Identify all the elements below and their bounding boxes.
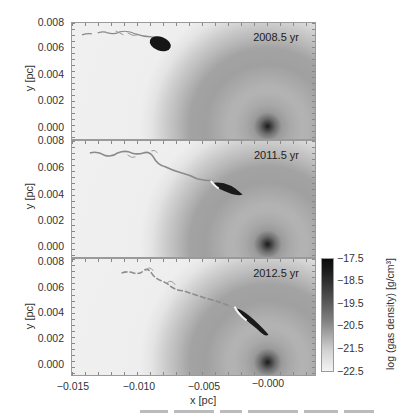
top-axis-ticks [72, 23, 315, 26]
colorbar-tick-label: −21.5 [337, 342, 364, 354]
right-axis-ticks [312, 259, 315, 375]
colorbar [321, 258, 334, 372]
bottom-axis-ticks [72, 372, 315, 375]
plot-panel-2012: 2012.5 yr [71, 258, 316, 376]
plot-panel-2008: 2008.5 yr [71, 22, 316, 140]
y-tick-label: 0.004 [14, 188, 64, 200]
x-axis-label: x [pc] [190, 394, 216, 406]
colorbar-tick-label: −19.5 [337, 297, 364, 309]
y-tick-label: 0.002 [14, 214, 64, 226]
y-tick-label: 0.000 [14, 358, 64, 370]
top-axis-ticks [72, 259, 315, 262]
y-axis-label: y [pc] [23, 171, 35, 221]
caption-fragment [140, 410, 403, 416]
colorbar-tick-label: −18.5 [337, 274, 364, 286]
y-axis-label: y [pc] [23, 291, 35, 341]
colorbar-label: log (gas density) [g/cm³] [384, 254, 396, 374]
x-tick-label: −0.005 [188, 380, 220, 392]
y-tick-label: 0.006 [14, 161, 64, 173]
y-tick-label: 0.002 [14, 94, 64, 106]
y-tick-label: 0.008 [14, 16, 64, 28]
x-tick-label: −0.000 [252, 377, 284, 389]
y-tick-label: 0.008 [14, 255, 64, 267]
top-axis-ticks [72, 141, 315, 144]
colorbar-tick-label: −20.5 [337, 319, 364, 331]
plot-panel-2011: 2011.5 yr [71, 140, 316, 258]
y-tick-label: 0.004 [14, 68, 64, 80]
y-axis-minor-ticks [72, 23, 75, 139]
colorbar-tick-label: −22.5 [337, 365, 364, 377]
colorbar-tick-label: −17.5 [337, 252, 364, 264]
y-axis-minor-ticks [72, 259, 75, 375]
y-axis-label: y [pc] [23, 53, 35, 103]
y-tick-label: 0.000 [14, 121, 64, 133]
y-tick-label: 0.006 [14, 41, 64, 53]
year-label: 2011.5 yr [254, 149, 299, 161]
x-tick-label: −0.010 [123, 380, 155, 392]
y-tick-label: 0.000 [14, 240, 64, 252]
y-axis-minor-ticks [72, 141, 75, 257]
y-tick-label: 0.004 [14, 306, 64, 318]
right-axis-ticks [312, 23, 315, 139]
y-tick-label: 0.006 [14, 281, 64, 293]
y-tick-label: 0.002 [14, 332, 64, 344]
year-label: 2008.5 yr [253, 31, 299, 43]
year-label: 2012.5 yr [253, 267, 299, 279]
y-tick-label: 0.008 [14, 134, 64, 146]
x-tick-label: −0.015 [57, 380, 89, 392]
right-axis-ticks [312, 141, 315, 257]
